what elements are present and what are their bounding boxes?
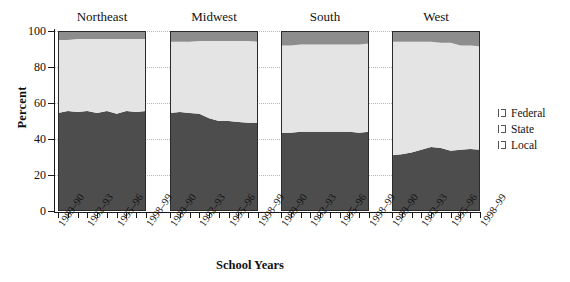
stacked-area-south (281, 31, 369, 211)
panel-title-midwest: Midwest (170, 9, 258, 25)
y-tick-label-20: 20 (2, 169, 46, 181)
band-state (392, 42, 480, 155)
y-tick-40 (48, 139, 54, 140)
y-tick-80 (48, 67, 54, 68)
panel-title-northeast: Northeast (58, 9, 146, 25)
legend-item-local[interactable]: Local (498, 138, 545, 152)
x-tick (330, 212, 331, 218)
y-tick-20 (48, 175, 54, 176)
y-axis-title: Percent (15, 68, 30, 148)
band-state (170, 41, 258, 123)
x-axis-title: School Years (0, 258, 500, 273)
band-state (281, 44, 369, 133)
panel-south (281, 31, 369, 211)
stacked-area-northeast (58, 31, 146, 211)
x-tick (470, 212, 471, 218)
chart-root: 100 80 60 40 20 0 Percent Northeast Midw… (0, 0, 570, 282)
x-tick (359, 212, 360, 218)
panel-title-west: West (392, 9, 480, 25)
x-tick (136, 212, 137, 218)
x-tick (412, 212, 413, 218)
legend-swatch-state-icon (498, 125, 506, 133)
x-tick-label: 1998–99 (478, 192, 508, 228)
band-federal (170, 31, 258, 42)
band-federal (58, 31, 146, 40)
stacked-area-midwest (170, 31, 258, 211)
stacked-area-west (392, 31, 480, 211)
y-tick-100 (48, 31, 54, 32)
x-tick (78, 212, 79, 218)
x-tick (190, 212, 191, 218)
x-tick (219, 212, 220, 218)
panel-title-south: South (281, 9, 369, 25)
panel-west (392, 31, 480, 211)
panel-midwest (170, 31, 258, 211)
y-tick-label-0: 0 (2, 205, 46, 217)
y-axis-line (54, 29, 55, 212)
legend-label-federal: Federal (511, 107, 545, 119)
legend-item-federal[interactable]: Federal (498, 106, 545, 120)
y-tick-60 (48, 103, 54, 104)
band-state (58, 39, 146, 114)
legend-label-state: State (511, 123, 534, 135)
x-tick (441, 212, 442, 218)
x-tick (248, 212, 249, 218)
band-federal (281, 31, 369, 45)
x-tick (301, 212, 302, 218)
panel-northeast (58, 31, 146, 211)
legend: Federal State Local (498, 106, 545, 154)
y-tick-label-100: 100 (2, 25, 46, 37)
legend-swatch-local-icon (498, 141, 506, 149)
legend-label-local: Local (511, 139, 537, 151)
legend-item-state[interactable]: State (498, 122, 545, 136)
legend-swatch-federal-icon (498, 109, 506, 117)
x-tick (107, 212, 108, 218)
